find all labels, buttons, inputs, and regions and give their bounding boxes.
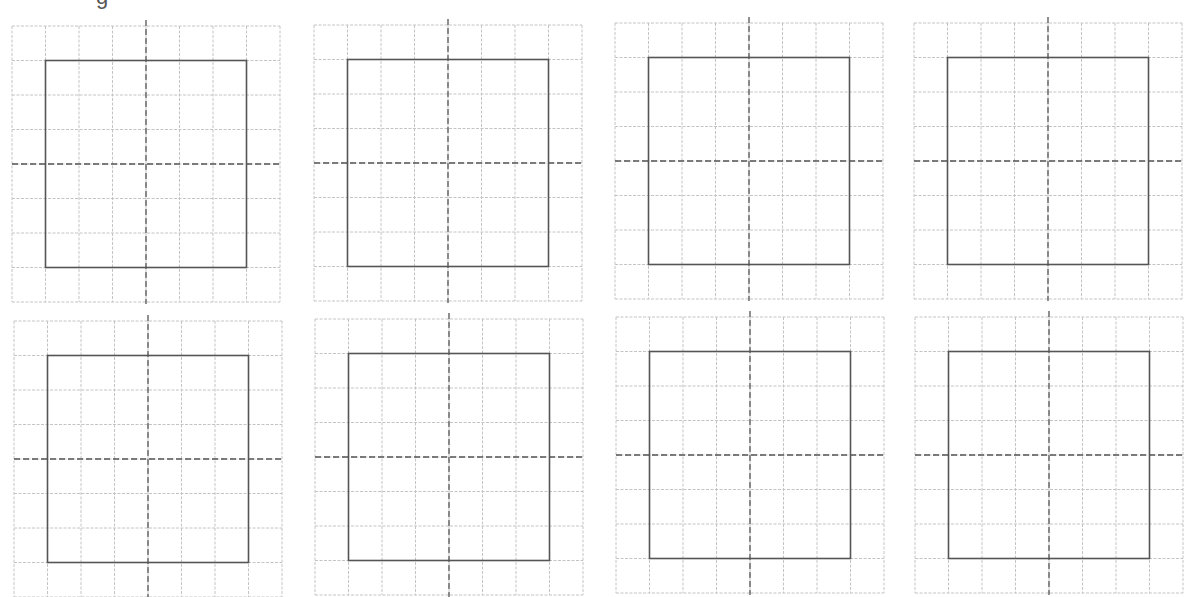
grid-drawing [315,319,583,595]
grid-panel-8 [915,317,1183,593]
grid-panel-5 [14,321,282,597]
grid-panel-3 [615,23,883,299]
clipped-title-fragment: g [96,0,108,8]
grid-drawing [14,321,282,597]
grid-panel-1 [12,26,280,302]
grid-drawing [914,23,1182,299]
grid-panel-2 [314,25,582,301]
grid-drawing [314,25,582,301]
grid-panel-6 [315,319,583,595]
grid-panel-7 [616,317,884,593]
grid-panel-4 [914,23,1182,299]
grid-drawing [915,317,1183,593]
grid-drawing [615,23,883,299]
grid-drawing [616,317,884,593]
grid-drawing [12,26,280,302]
